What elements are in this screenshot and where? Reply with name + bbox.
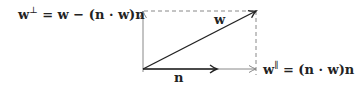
parallel-rhs: = (n · w)n bbox=[278, 62, 354, 77]
perp-rhs: = w − (n · w)n bbox=[38, 7, 146, 22]
perp-lhs-sup: ⊥ bbox=[29, 5, 37, 15]
perp-equation: w⊥ = w − (n · w)n bbox=[17, 5, 145, 22]
w-vector bbox=[143, 11, 256, 69]
vector-decomposition-diagram: w⊥ = w − (n · w)n w n w∥ = (n · w)n bbox=[0, 0, 362, 85]
parallel-lhs-base: w bbox=[262, 62, 275, 77]
perp-lhs-base: w bbox=[17, 7, 30, 22]
n-vector-label: n bbox=[174, 70, 184, 85]
w-vector-label: w bbox=[213, 12, 226, 27]
parallel-equation: w∥ = (n · w)n bbox=[262, 60, 355, 77]
